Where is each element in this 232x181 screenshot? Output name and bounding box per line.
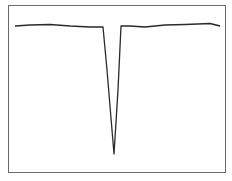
data-line xyxy=(15,24,220,155)
line-chart xyxy=(0,0,232,181)
